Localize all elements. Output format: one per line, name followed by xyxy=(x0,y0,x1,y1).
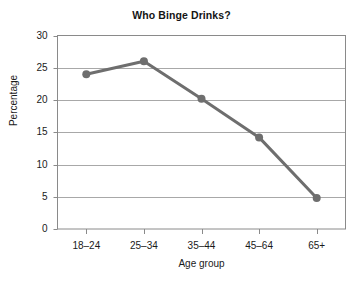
data-point xyxy=(313,194,321,202)
x-tick-label: 65+ xyxy=(282,241,352,251)
x-tick-marks xyxy=(87,229,318,234)
y-tick-label: 0 xyxy=(18,224,48,234)
plot-area xyxy=(0,0,363,281)
y-tick-label: 25 xyxy=(18,63,48,73)
y-tick-label: 15 xyxy=(18,127,48,137)
y-tick-label: 20 xyxy=(18,95,48,105)
gridlines xyxy=(58,69,346,198)
y-tick-label: 30 xyxy=(18,31,48,41)
y-tick-label: 5 xyxy=(18,192,48,202)
data-point xyxy=(82,70,90,78)
data-point xyxy=(140,57,148,65)
data-markers xyxy=(82,57,320,202)
chart-figure: Who Binge Drinks? Percentage Age group 0… xyxy=(0,0,363,281)
data-line xyxy=(86,61,316,198)
y-tick-label: 10 xyxy=(18,160,48,170)
y-tick-marks xyxy=(54,37,58,230)
data-point xyxy=(255,133,263,141)
data-point xyxy=(198,95,206,103)
